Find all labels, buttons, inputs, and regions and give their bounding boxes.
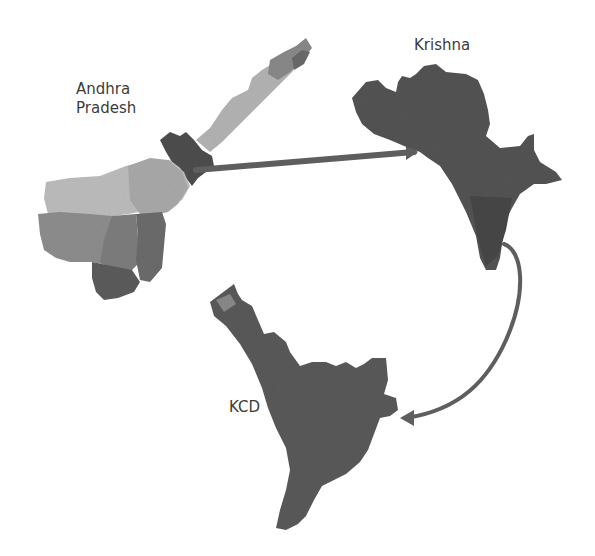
andhra-pradesh-map [38, 38, 312, 300]
andhra-pradesh-label: Andhra Pradesh [76, 80, 136, 118]
arrow-krishna-to-kcd [400, 244, 520, 426]
kcd-label: KCD [229, 398, 260, 417]
state-label-line1: Andhra [76, 80, 136, 99]
krishna-label: Krishna [414, 36, 470, 55]
map-figure: Andhra Pradesh Krishna KCD [0, 0, 595, 556]
krishna-district-map [352, 64, 562, 270]
ap-district-southeast-dark [136, 212, 166, 282]
state-label-line2: Pradesh [76, 99, 136, 118]
arrow-ap-to-krishna [196, 144, 418, 170]
